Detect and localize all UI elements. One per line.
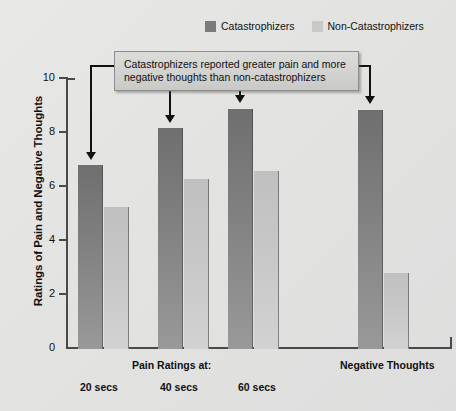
arrow-head-icon-4 [365,96,375,104]
bar-catastrophizers-60secs [228,109,253,349]
y-tick-10 [59,77,68,79]
bar-non-catastrophizers-negative-thoughts [384,273,409,349]
x-group-label-negative-thoughts: Negative Thoughts [340,359,435,371]
x-group-label-pain-ratings: Pain Ratings at: [132,359,211,371]
bar-catastrophizers-40secs [158,128,183,349]
bar-non-catastrophizers-40secs [184,179,209,349]
annotation-line-1: Catastrophizers reported greater pain an… [124,58,350,71]
x-axis-end-tick [450,337,452,349]
arrow-head-icon-3 [235,95,245,103]
y-tick-label-0: 0 [15,342,55,353]
bar-non-catastrophizers-20secs [104,207,129,349]
y-tick-6 [59,185,68,187]
x-sub-label-20-secs: 20 secs [80,381,118,393]
y-tick-4 [59,239,68,241]
leader-line-vertical-4 [369,65,371,97]
y-tick-8 [59,131,68,133]
annotation-callout: Catastrophizers reported greater pain an… [114,51,359,91]
bar-chart-figure: Catastrophizers Non-Catastrophizers 10 8… [0,0,456,411]
arrow-head-icon-1 [86,152,96,160]
bar-non-catastrophizers-60secs [254,171,279,349]
leader-line-horizontal-1 [90,65,116,67]
y-tick-label-10: 10 [15,72,55,83]
x-sub-label-60-secs: 60 secs [238,381,276,393]
bar-catastrophizers-20secs [78,165,103,349]
bar-catastrophizers-negative-thoughts [358,110,383,349]
annotation-line-2: negative thoughts than non-catastrophize… [124,71,350,84]
y-axis-line [66,78,68,349]
arrow-head-icon-2 [165,115,175,123]
y-axis-title: Ratings of Pain and Negative Thoughts [32,86,44,316]
leader-line-vertical-1 [90,65,92,153]
plot-area: 10 8 6 4 2 0 Ratings of Pain and Negativ… [0,0,456,411]
y-tick-2 [59,293,68,295]
x-sub-label-40-secs: 40 secs [160,381,198,393]
